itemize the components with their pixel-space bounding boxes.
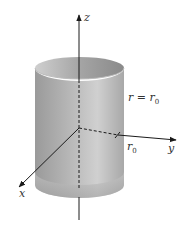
surface-equation-text: r = r xyxy=(128,91,155,104)
y-axis-label: y xyxy=(168,143,174,154)
radius-label: r0 xyxy=(127,141,137,155)
x-axis-label: x xyxy=(19,188,25,199)
surface-equation-subscript: 0 xyxy=(155,98,159,106)
radius-subscript: 0 xyxy=(132,147,136,155)
diagram-canvas xyxy=(0,0,190,229)
surface-equation-label: r = r0 xyxy=(128,92,159,106)
z-axis-label: z xyxy=(84,12,90,23)
